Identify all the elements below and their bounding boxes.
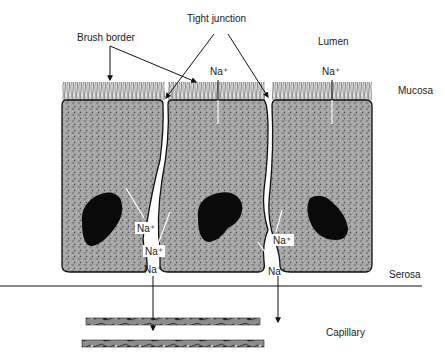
na-ion-gap1-middle: Na⁺ bbox=[145, 246, 163, 257]
label-brush-border: Brush border bbox=[77, 32, 135, 43]
label-lumen: Lumen bbox=[318, 36, 349, 47]
label-capillary: Capillary bbox=[326, 327, 365, 338]
na-ion-lumen-left: Na⁺ bbox=[210, 66, 228, 77]
label-mucosa: Mucosa bbox=[398, 85, 433, 96]
label-tight-junction: Tight junction bbox=[187, 13, 246, 24]
na-ion-gap2-upper: Na⁺ bbox=[273, 235, 291, 246]
na-ion-lumen-right: Na⁺ bbox=[322, 66, 340, 77]
cell-right bbox=[269, 100, 372, 272]
capillary bbox=[82, 318, 264, 347]
epithelium-diagram: Tight junction Brush border Lumen Mucosa… bbox=[0, 0, 445, 361]
cell-middle bbox=[158, 100, 268, 272]
na-ion-gap2-lower: Na⁺ bbox=[268, 266, 286, 277]
label-serosa: Serosa bbox=[389, 269, 421, 280]
na-ion-gap1-upper: Na⁺ bbox=[137, 223, 155, 234]
brush-border-pointers bbox=[110, 46, 196, 82]
na-ion-gap1-lower: Na⁺ bbox=[144, 264, 162, 275]
brush-border bbox=[62, 82, 372, 100]
